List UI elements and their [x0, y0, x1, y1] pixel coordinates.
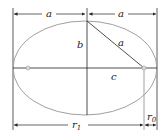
- ellipse-diagram: a a b a c r1 r0: [0, 0, 167, 134]
- label-b: b: [77, 39, 83, 50]
- label-a-hypotenuse: a: [118, 37, 124, 48]
- label-a-left: a: [46, 8, 52, 19]
- label-c: c: [111, 71, 117, 82]
- label-r0: r0: [147, 111, 157, 124]
- label-a-right: a: [118, 8, 124, 19]
- right-focus: [142, 66, 146, 70]
- hypotenuse-line: [87, 21, 144, 68]
- label-r1: r1: [72, 119, 81, 132]
- left-focus: [26, 66, 30, 70]
